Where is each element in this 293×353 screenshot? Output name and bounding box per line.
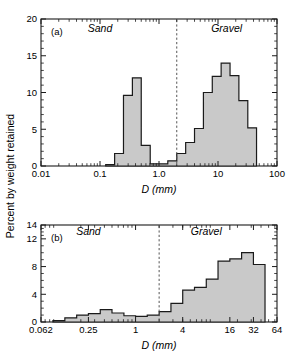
x-tick-label: 4 (180, 324, 185, 335)
panel-a: 0.010.11.01010005101520(a)SandGravel (26, 13, 285, 179)
panel-label: (a) (51, 26, 63, 37)
y-tick-label: 8 (32, 261, 37, 272)
y-tick-label: 0 (32, 160, 37, 171)
x-tick-label: 16 (225, 324, 236, 335)
y-tick-label: 4 (32, 289, 37, 300)
y-tick-label: 10 (26, 87, 37, 98)
x-axis-title: D (mm) (142, 339, 177, 351)
y-tick-label: 5 (32, 124, 37, 135)
region-label-gravel: Gravel (191, 225, 223, 237)
y-tick-label: 20 (26, 13, 37, 24)
region-label-gravel: Gravel (211, 22, 243, 34)
region-label-sand: Sand (88, 22, 114, 34)
panel-label: (b) (51, 232, 63, 243)
x-tick-label: 32 (248, 324, 259, 335)
grain-size-distribution-figure: 0.010.11.01010005101520(a)SandGravelD (m… (0, 0, 293, 353)
x-tick-label: 0.1 (93, 168, 106, 179)
panel-b: 0.0620.25141632640481214(b)SandGravel (26, 219, 282, 335)
y-tick-label: 14 (26, 219, 37, 230)
y-tick-label: 12 (26, 233, 37, 244)
x-axis-title: D (mm) (142, 183, 177, 195)
histogram-series (106, 63, 257, 166)
y-tick-label: 0 (32, 316, 37, 327)
x-tick-label: 1 (133, 324, 138, 335)
y-tick-label: 15 (26, 50, 37, 61)
x-tick-label: 1.0 (152, 168, 165, 179)
region-label-sand: Sand (76, 225, 102, 237)
x-tick-label: 0.25 (79, 324, 98, 335)
y-axis-title: Percent by weight retained (4, 114, 16, 238)
x-tick-label: 10 (213, 168, 224, 179)
x-tick-label: 100 (269, 168, 285, 179)
x-tick-label: 64 (272, 324, 283, 335)
figure-container: 0.010.11.01010005101520(a)SandGravelD (m… (0, 0, 293, 353)
